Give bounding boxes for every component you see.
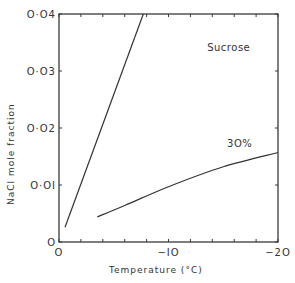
y-tick-label: O [47,237,56,248]
annotation-label: 3O% [227,138,252,149]
annotations: Sucrose3O% [207,42,252,149]
annotation-label: Sucrose [207,42,250,53]
series-steep-line [65,14,143,227]
y-tick-label: O·OI [30,180,56,191]
x-axis-label: Temperature (°C) [108,265,203,275]
x-tick-label: O [55,247,64,258]
y-axis-label: NaCl mole fraction [6,103,16,205]
y-tick-label: O·O4 [27,9,56,20]
y-tick-label: O·O2 [27,123,56,134]
series-30pct [97,153,278,217]
chart: O−IO−2OOO·OIO·O2O·O3O·O4 Sucrose3O% Temp… [0,0,295,283]
x-tick-label: −IO [157,247,179,258]
y-tick-label: O·O3 [27,66,56,77]
x-tick-label: −2O [265,247,291,258]
tick-labels: O−IO−2OOO·OIO·O2O·O3O·O4 [27,9,291,258]
